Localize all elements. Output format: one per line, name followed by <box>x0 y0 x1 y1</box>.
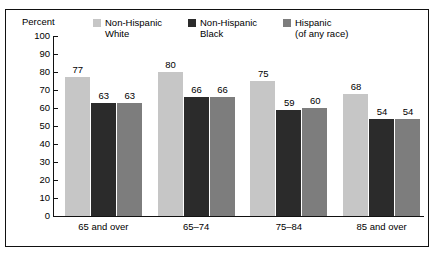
y-axis-tick-label: 70 <box>24 85 50 94</box>
y-axis-tick-label: 100 <box>24 31 50 40</box>
bar <box>210 97 235 216</box>
clipped-header-text <box>0 0 435 2</box>
bar-value-label: 63 <box>115 91 145 101</box>
bar-value-label: 54 <box>393 107 423 117</box>
bar-group: 755960 <box>250 36 327 216</box>
y-axis-title: Percent <box>22 16 55 27</box>
legend-swatch-non-hispanic-white <box>93 19 101 27</box>
bar-group: 806666 <box>158 36 235 216</box>
bar <box>184 97 209 216</box>
bar <box>302 108 327 216</box>
y-axis-tick-label: 50 <box>24 121 50 130</box>
bar <box>343 94 368 216</box>
y-axis-tick-label: 40 <box>24 139 50 148</box>
bar-value-label: 60 <box>300 96 330 106</box>
bar-value-label: 77 <box>63 65 93 75</box>
bar-value-label: 80 <box>156 60 186 70</box>
bar-value-label: 75 <box>248 69 278 79</box>
bar-value-label: 66 <box>208 85 238 95</box>
bar <box>158 72 183 216</box>
x-axis-line <box>53 216 424 217</box>
y-axis-tick-label: 10 <box>24 193 50 202</box>
y-axis-tick-label: 60 <box>24 103 50 112</box>
legend-swatch-non-hispanic-black <box>188 19 196 27</box>
bar <box>369 119 394 216</box>
bar <box>65 77 90 216</box>
bar-group: 685454 <box>343 36 420 216</box>
chart-figure: Percent Non-Hispanic WhiteNon-Hispanic B… <box>0 0 435 253</box>
bar <box>395 119 420 216</box>
bar-group: 776363 <box>65 36 142 216</box>
bar-value-label: 68 <box>341 82 371 92</box>
x-axis-category-label: 85 and over <box>323 221 435 232</box>
y-axis-tick-label: 20 <box>24 175 50 184</box>
bar <box>250 81 275 216</box>
y-axis-tick-label: 30 <box>24 157 50 166</box>
bar <box>91 103 116 216</box>
bar <box>276 110 301 216</box>
bar <box>117 103 142 216</box>
legend-swatch-hispanic <box>283 19 291 27</box>
y-axis-tick-label: 90 <box>24 49 50 58</box>
y-axis-tick-label: 0 <box>24 211 50 220</box>
y-axis-tick-label: 80 <box>24 67 50 76</box>
plot-area: 776363806666755960685454 <box>53 36 424 216</box>
